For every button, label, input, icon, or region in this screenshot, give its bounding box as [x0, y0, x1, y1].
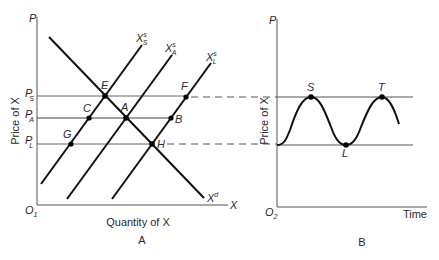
panel-b-y-label: P [269, 14, 277, 26]
panel-b: S L T P Price of X O2 Time B [258, 14, 427, 248]
point-f [183, 94, 188, 99]
label-h: H [157, 138, 165, 150]
panel-b-caption: B [358, 236, 365, 248]
panel-b-x-title: Time [403, 208, 427, 220]
supply-curve-s [41, 45, 142, 184]
point-g [68, 141, 73, 146]
panel-a-x-label: X [229, 199, 238, 211]
label-s: S [307, 81, 315, 93]
label-c: C [83, 102, 91, 114]
label-f: F [181, 80, 189, 92]
label-supply-a: XsA [164, 41, 177, 56]
label-ps: PS [25, 87, 34, 102]
label-t: T [378, 81, 386, 93]
panel-a-origin: O1 [25, 204, 38, 218]
label-supply-s: XsS [135, 31, 148, 46]
point-t [379, 94, 385, 100]
point-h [149, 141, 155, 147]
panel-b-y-title: Price of X [258, 96, 270, 144]
panel-a-y-label: P [29, 12, 37, 24]
label-g: G [63, 128, 72, 140]
label-demand: Xd [206, 191, 219, 204]
point-b [168, 115, 173, 120]
label-supply-l: XsL [205, 50, 217, 65]
panel-a: E C A G F B H XsS XsA XsL Xd P X O1 PS P… [9, 12, 277, 246]
point-a [123, 115, 129, 121]
point-c [86, 115, 91, 120]
label-l: L [342, 147, 348, 159]
panel-a-caption: A [138, 234, 146, 246]
panel-a-x-title: Quantity of X [106, 216, 170, 228]
label-e: E [101, 79, 109, 91]
diagram-canvas: E C A G F B H XsS XsA XsL Xd P X O1 PS P… [0, 0, 439, 260]
point-e [102, 93, 108, 99]
supply-curve-l [112, 63, 211, 199]
panel-b-origin: O2 [265, 206, 278, 220]
label-a: A [120, 101, 128, 113]
price-cycle-curve [277, 97, 399, 145]
panel-a-y-title: Price of X [9, 96, 21, 144]
label-pa: PA [25, 108, 34, 123]
label-b: B [175, 113, 182, 125]
point-s [308, 94, 314, 100]
label-pl: PL [25, 134, 33, 149]
